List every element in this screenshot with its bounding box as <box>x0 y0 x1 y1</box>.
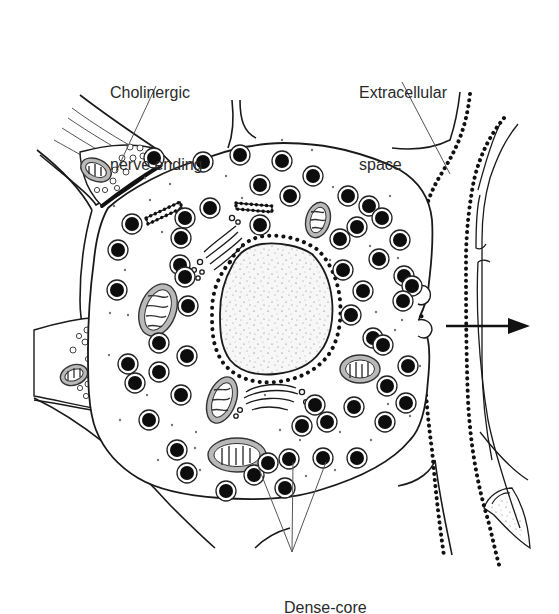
dense-core-vesicle <box>177 463 197 483</box>
dense-core-vesicle <box>139 410 159 430</box>
dense-core-vesicle <box>275 478 295 498</box>
dense-core-vesicle <box>353 281 373 301</box>
label-dense-core-vesicles: Dense-core vesicles <box>284 548 367 614</box>
dense-core-vesicle <box>167 440 187 460</box>
dense-core-vesicle <box>396 393 416 413</box>
mitochondrion <box>340 355 380 383</box>
dense-core-vesicle <box>230 145 250 165</box>
label-extracellular-space: Extracellular space <box>359 33 447 225</box>
dense-core-vesicle <box>149 362 169 382</box>
dense-core-vesicle <box>303 166 323 186</box>
dense-core-vesicle <box>333 260 353 280</box>
dense-core-vesicle <box>279 449 299 469</box>
dense-core-vesicle <box>258 453 278 473</box>
dense-core-vesicle <box>393 291 413 311</box>
label-extracellular-line2: space <box>359 153 447 177</box>
dense-core-vesicle <box>171 228 191 248</box>
diagram-canvas: Cholinergic nerve ending Extracellular s… <box>0 0 559 614</box>
label-vesicles-line1: Dense-core <box>284 596 367 614</box>
dense-core-vesicle <box>118 354 138 374</box>
label-cholinergic-line2: nerve ending <box>110 153 203 177</box>
label-cholinergic-line1: Cholinergic <box>110 81 203 105</box>
dense-core-vesicle <box>375 412 395 432</box>
dense-core-vesicle <box>292 416 312 436</box>
dense-core-vesicle <box>250 215 270 235</box>
dense-core-vesicle <box>108 240 128 260</box>
label-cholinergic-nerve-ending: Cholinergic nerve ending <box>110 33 203 225</box>
dense-core-vesicle <box>149 333 169 353</box>
dense-core-vesicle <box>341 305 361 325</box>
dense-core-vesicle <box>398 356 418 376</box>
dense-core-vesicle <box>330 229 350 249</box>
dense-core-vesicle <box>178 296 198 316</box>
dense-core-vesicle <box>272 151 292 171</box>
dense-core-vesicle <box>177 346 197 366</box>
endothelial-cell-stipple <box>490 496 526 540</box>
dense-core-vesicle <box>216 481 236 501</box>
dense-core-vesicle <box>305 395 325 415</box>
dense-core-vesicle <box>250 175 270 195</box>
secretion-arrow <box>446 318 530 334</box>
dense-core-vesicle <box>125 373 145 393</box>
dense-core-vesicle <box>175 267 195 287</box>
dense-core-vesicle <box>313 448 333 468</box>
dense-core-vesicle <box>107 280 127 300</box>
dense-core-vesicle <box>369 249 389 269</box>
dense-core-vesicle <box>338 186 358 206</box>
dense-core-vesicle <box>317 412 337 432</box>
dense-core-vesicle <box>347 448 367 468</box>
dense-core-vesicle <box>200 198 220 218</box>
dense-core-vesicle <box>171 385 191 405</box>
dense-core-vesicle <box>373 335 393 355</box>
dense-core-vesicle <box>280 186 300 206</box>
dense-core-vesicle <box>390 230 410 250</box>
dense-core-vesicle <box>344 397 364 417</box>
dense-core-vesicle <box>377 376 397 396</box>
cell-illustration <box>0 0 559 614</box>
label-extracellular-line1: Extracellular <box>359 81 447 105</box>
